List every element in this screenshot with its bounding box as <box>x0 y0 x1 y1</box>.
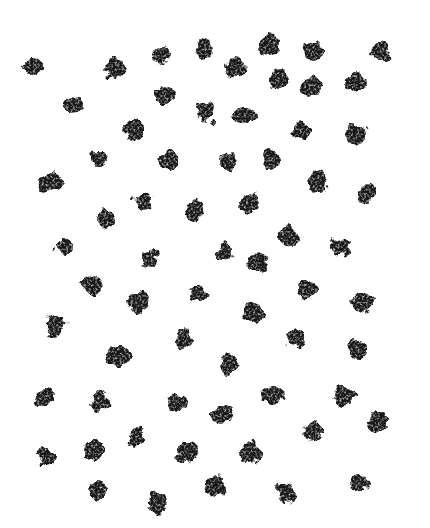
charcoal-dot <box>352 292 374 312</box>
charcoal-dot <box>38 447 56 465</box>
charcoal-dot <box>167 392 187 412</box>
charcoal-dot <box>64 96 82 114</box>
charcoal-dot <box>276 481 296 501</box>
charcoal-dot <box>369 412 387 432</box>
charcoal-dot <box>278 225 298 247</box>
charcoal-dot <box>258 35 280 55</box>
charcoal-dot <box>140 249 158 269</box>
charcoal-dot <box>91 151 107 167</box>
charcoal-dot <box>105 56 125 78</box>
charcoal-dot <box>215 243 233 261</box>
charcoal-dot <box>359 183 377 203</box>
charcoal-dot <box>177 441 197 463</box>
charcoal-dot <box>264 385 282 405</box>
charcoal-dot <box>302 42 324 62</box>
charcoal-dot <box>347 338 367 360</box>
charcoal-dot <box>133 190 153 210</box>
charcoal-dot <box>345 72 365 94</box>
charcoal-dot <box>156 86 174 106</box>
dot-pattern-svg <box>0 0 430 528</box>
charcoal-dot <box>207 476 225 496</box>
charcoal-dot <box>36 389 54 405</box>
charcoal-dot <box>108 344 132 366</box>
charcoal-dot <box>97 211 115 229</box>
charcoal-dot <box>88 482 106 500</box>
charcoal-dot <box>249 253 269 273</box>
charcoal-dot <box>126 292 148 312</box>
charcoal-dot <box>91 391 109 411</box>
charcoal-dot <box>57 236 75 256</box>
charcoal-dot <box>333 387 353 405</box>
dot-pattern-image <box>0 0 430 528</box>
charcoal-dot <box>298 280 318 298</box>
charcoal-dot <box>242 442 260 464</box>
charcoal-dot <box>331 237 351 255</box>
charcoal-dot <box>193 41 213 59</box>
charcoal-dot <box>346 125 366 145</box>
charcoal-dot <box>300 77 320 95</box>
charcoal-dot <box>244 303 262 323</box>
paper-background <box>0 0 430 528</box>
charcoal-dot <box>347 473 367 493</box>
charcoal-dot <box>160 152 178 172</box>
charcoal-dot <box>235 106 255 124</box>
charcoal-dot <box>175 330 193 350</box>
charcoal-dot <box>302 423 322 441</box>
charcoal-dot <box>186 201 204 221</box>
charcoal-dot <box>124 119 142 139</box>
charcoal-dot <box>219 152 237 170</box>
charcoal-dot <box>270 71 288 89</box>
charcoal-dot <box>147 492 167 514</box>
charcoal-dot <box>287 327 305 347</box>
charcoal-dot <box>293 120 311 140</box>
charcoal-dot <box>220 354 238 374</box>
charcoal-dot <box>308 171 328 193</box>
charcoal-dot <box>152 45 170 65</box>
charcoal-dot <box>126 427 144 447</box>
charcoal-dot <box>261 150 279 170</box>
charcoal-dot <box>225 58 245 78</box>
charcoal-dot <box>240 193 258 213</box>
charcoal-dot <box>213 406 233 424</box>
charcoal-dot <box>198 102 216 122</box>
